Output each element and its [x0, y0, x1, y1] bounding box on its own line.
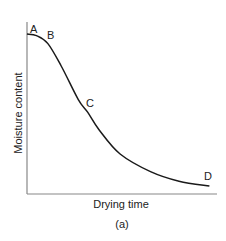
point-label-b: B [47, 30, 54, 41]
point-label-a: A [30, 24, 37, 35]
figure-caption: (a) [115, 218, 128, 230]
y-axis-label: Moisture content [12, 72, 24, 153]
point-label-c: C [86, 98, 94, 109]
point-label-d: D [204, 171, 212, 182]
x-axis-label: Drying time [93, 198, 149, 210]
drying-curve [27, 34, 209, 186]
